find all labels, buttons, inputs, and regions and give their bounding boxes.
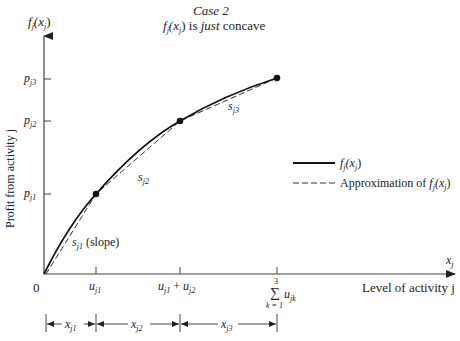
x-tick-label-sum: 3 ∑ k = 1 ujk (256, 278, 306, 312)
title-case: Case 2 (193, 4, 229, 17)
slope-label-sj2: sj2 (138, 171, 149, 186)
legend-item-function: fj(xj) (340, 157, 361, 172)
legend-item-approximation: Approximation of fj(xj) (340, 177, 450, 192)
y-axis-title: Profit from activity j (3, 129, 18, 228)
y-axis-function-label: fj(xj) (28, 15, 51, 31)
segment-label-xj1: xj1 (65, 318, 77, 333)
y-tick-label-pj1: pj1 (24, 187, 36, 202)
segment-label-xj3: xj3 (221, 318, 233, 333)
x-axis-variable-label: xj (446, 254, 454, 269)
breakpoint-3 (274, 75, 281, 82)
x-tick-label-uj1-plus-uj2: uj1 + uj2 (158, 280, 195, 295)
y-tick-label-pj2: pj2 (24, 114, 36, 129)
segment-label-xj2: xj2 (131, 318, 143, 333)
y-tick-label-pj3: pj3 (24, 72, 36, 87)
title-subtitle: fj(xj) is just concave (163, 19, 265, 35)
x-tick-label-uj1: uj1 (89, 280, 101, 295)
breakpoint-1 (93, 191, 100, 198)
origin-label: 0 (33, 281, 40, 294)
breakpoint-2 (177, 118, 184, 125)
slope-label-sj3: sj3 (228, 100, 239, 115)
x-axis-title: Level of activity j (362, 281, 455, 294)
slope-label-sj1: sj1 (slope) (72, 236, 119, 251)
